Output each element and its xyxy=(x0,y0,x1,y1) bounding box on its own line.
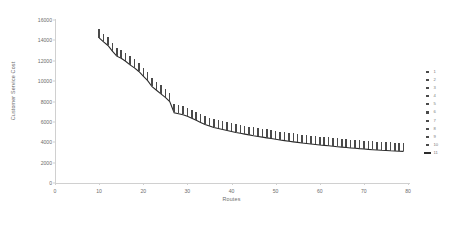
legend-item[interactable]: 7 xyxy=(424,117,454,125)
data-point xyxy=(368,145,370,147)
legend-marker-swatch xyxy=(424,133,431,140)
data-point xyxy=(182,106,184,108)
data-point xyxy=(191,113,193,115)
legend-item[interactable]: 2 xyxy=(424,76,454,84)
data-point xyxy=(306,135,308,137)
legend-marker-swatch xyxy=(424,141,431,148)
legend-item[interactable]: 3 xyxy=(424,84,454,92)
data-point xyxy=(341,142,343,144)
data-point xyxy=(381,149,383,151)
data-point xyxy=(372,143,374,145)
data-point xyxy=(116,54,118,56)
data-point xyxy=(376,144,378,146)
data-point xyxy=(315,136,317,138)
legend-marker-swatch xyxy=(424,93,431,100)
data-point xyxy=(191,117,193,119)
y-tick-mark xyxy=(53,142,55,143)
data-point xyxy=(182,113,184,115)
data-point xyxy=(231,127,233,129)
data-point xyxy=(319,143,321,145)
data-point xyxy=(350,142,352,144)
x-tick-label: 40 xyxy=(217,188,247,194)
data-point xyxy=(368,141,370,143)
data-point xyxy=(363,141,365,143)
data-point xyxy=(381,145,383,147)
data-point xyxy=(151,80,153,82)
data-point xyxy=(301,141,303,143)
legend-marker-swatch xyxy=(424,101,431,108)
data-point xyxy=(165,93,167,95)
data-point xyxy=(345,146,347,148)
data-point xyxy=(103,36,105,38)
legend-marker-swatch xyxy=(424,117,431,124)
data-point xyxy=(293,133,295,135)
legend-item[interactable]: 1 xyxy=(424,68,454,76)
data-point xyxy=(226,124,228,126)
data-point xyxy=(240,127,242,129)
data-point xyxy=(200,114,202,116)
data-point xyxy=(403,150,405,152)
legend-item[interactable]: 11 xyxy=(424,149,454,157)
data-point xyxy=(403,143,405,145)
data-point xyxy=(178,109,180,111)
data-point xyxy=(270,130,272,132)
data-point xyxy=(143,68,145,70)
data-point xyxy=(191,110,193,112)
legend-item[interactable]: 4 xyxy=(424,92,454,100)
data-point xyxy=(306,139,308,141)
x-tick-label: 20 xyxy=(128,188,158,194)
data-point xyxy=(398,146,400,148)
data-point xyxy=(182,110,184,112)
data-point xyxy=(120,52,122,54)
data-point xyxy=(169,95,171,97)
data-point xyxy=(160,85,162,87)
data-point xyxy=(376,142,378,144)
y-tick-mark xyxy=(53,60,55,61)
data-point xyxy=(187,110,189,112)
data-point xyxy=(279,138,281,140)
data-point xyxy=(385,146,387,148)
data-point xyxy=(293,135,295,137)
legend-item[interactable]: 6 xyxy=(424,108,454,116)
data-point xyxy=(372,148,374,150)
data-point xyxy=(147,72,149,74)
data-point xyxy=(257,128,259,130)
legend-item[interactable]: 9 xyxy=(424,133,454,141)
data-point xyxy=(297,134,299,136)
data-point xyxy=(138,65,140,67)
data-point xyxy=(337,138,339,140)
data-point xyxy=(160,88,162,90)
legend-marker-swatch xyxy=(424,77,431,84)
data-point xyxy=(266,129,268,131)
y-tick-mark xyxy=(53,183,55,184)
data-point xyxy=(222,123,224,125)
legend-item[interactable]: 8 xyxy=(424,125,454,133)
legend-item[interactable]: 5 xyxy=(424,100,454,108)
data-point xyxy=(376,148,378,150)
data-point xyxy=(319,139,321,141)
x-tick-label: 60 xyxy=(305,188,335,194)
data-point xyxy=(381,142,383,144)
data-point xyxy=(332,145,334,147)
data-point xyxy=(213,121,215,123)
data-point xyxy=(262,131,264,133)
data-point xyxy=(363,144,365,146)
data-point xyxy=(262,135,264,137)
data-point xyxy=(160,92,162,94)
y-tick-mark xyxy=(53,40,55,41)
data-point xyxy=(319,140,321,142)
data-point xyxy=(103,37,105,39)
legend-item[interactable]: 10 xyxy=(424,141,454,149)
data-point xyxy=(116,51,118,53)
data-point xyxy=(337,142,339,144)
data-point xyxy=(288,136,290,138)
data-point xyxy=(359,140,361,142)
data-point xyxy=(275,134,277,136)
data-point xyxy=(129,60,131,62)
data-point xyxy=(363,143,365,145)
data-point xyxy=(156,85,158,87)
data-point xyxy=(284,139,286,141)
legend-label: 6 xyxy=(434,110,436,114)
data-point xyxy=(381,144,383,146)
data-point xyxy=(244,132,246,134)
